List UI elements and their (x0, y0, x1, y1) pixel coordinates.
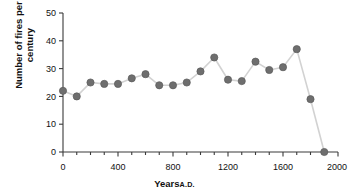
data-point-100 (73, 93, 80, 100)
data-point-0 (59, 87, 66, 94)
y-tick-marks (59, 13, 63, 152)
fire-frequency-chart-figure: Number of fires per century YearsA.D. 50… (0, 0, 349, 195)
data-point-1300 (238, 78, 245, 85)
data-point-1700 (293, 46, 300, 53)
data-point-1900 (321, 148, 328, 155)
plot-canvas (0, 0, 349, 195)
data-point-1600 (279, 64, 286, 71)
data-point-900 (183, 79, 190, 86)
data-point-500 (128, 75, 135, 82)
data-point-1000 (197, 68, 204, 75)
data-point-800 (169, 82, 176, 89)
data-point-700 (156, 82, 163, 89)
data-point-400 (114, 80, 121, 87)
data-point-300 (101, 80, 108, 87)
x-tick-marks (63, 152, 338, 157)
data-point-1200 (224, 76, 231, 83)
data-point-1100 (211, 54, 218, 61)
data-point-1400 (252, 58, 259, 65)
data-point-200 (87, 79, 94, 86)
data-point-1500 (266, 66, 273, 73)
data-point-600 (142, 71, 149, 78)
data-point-1800 (307, 96, 314, 103)
